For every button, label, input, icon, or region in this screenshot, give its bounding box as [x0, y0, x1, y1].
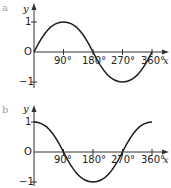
x-tick-360: 360°	[141, 56, 165, 66]
y-axis-label: y	[23, 104, 29, 114]
x-tick-270: 270°	[111, 155, 135, 165]
y-axis-arrow-icon	[32, 105, 37, 112]
y-tick-1: 1	[25, 117, 31, 127]
y-tick-1: 1	[25, 17, 31, 27]
x-tick-180: 180°	[82, 56, 106, 66]
origin-label: O	[24, 147, 32, 157]
x-axis-label: x	[163, 155, 169, 165]
x-tick-180: 180°	[82, 155, 106, 165]
y-tick-neg1: −1	[19, 77, 34, 87]
x-tick-360: 360°	[141, 155, 165, 165]
x-tick-90: 90°	[54, 155, 72, 165]
origin-label: O	[24, 47, 32, 57]
chart-panel-b: b y 1 O −1 90° 180° 270° 360° x	[0, 94, 171, 188]
chart-panel-a: a y 1 O −1 90° 180° 270° 360° x	[0, 0, 171, 94]
y-tick-neg1: −1	[19, 177, 34, 187]
x-axis-label: x	[163, 56, 169, 66]
y-axis-label: y	[23, 4, 29, 14]
x-tick-270: 270°	[111, 56, 135, 66]
x-axis-arrow-icon	[162, 50, 169, 55]
y-axis-arrow-icon	[32, 3, 37, 10]
x-tick-90: 90°	[54, 56, 72, 66]
